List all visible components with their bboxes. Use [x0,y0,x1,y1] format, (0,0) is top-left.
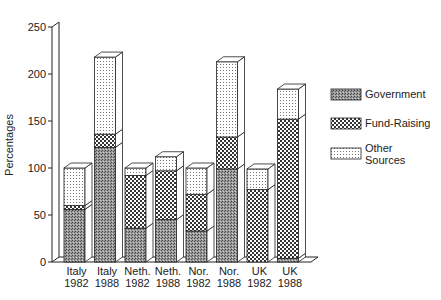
chart-canvas: 050100150200250 Italy1982Italy1988Neth.1… [0,0,441,300]
x-tick-label: 1982 [64,277,88,289]
bar-segment [95,57,116,134]
y-axis-title: Percentages [3,114,15,176]
legend-item: Fund-Raising [331,117,430,129]
x-tick-label: Italy [66,265,87,277]
bar-segment [186,231,207,262]
x-tick-label: Nor. [188,265,208,277]
legend-item: Government [331,88,426,100]
x-tick-label: Italy [97,265,118,277]
y-tick-label: 100 [28,162,46,174]
bars [64,52,306,262]
bar-segment [217,137,238,169]
y-axis: 050100150200250 [28,21,59,268]
bar-group [247,164,275,262]
bar-segment [247,190,268,262]
bar-group [186,163,214,262]
legend-label: Other [365,142,393,154]
x-tick-label: 1988 [156,277,180,289]
bar-group [95,52,123,262]
x-tick-label: UK [252,265,268,277]
bar-group [125,163,153,262]
bar-segment [64,209,85,262]
x-tick-label: 1988 [278,277,302,289]
x-tick-label: Neth. [124,265,150,277]
bar-segment [64,206,85,210]
y-tick-label: 200 [28,68,46,80]
x-tick-label: Nor. [219,265,239,277]
x-tick-label: 1988 [95,277,119,289]
bar-segment [95,134,116,147]
x-tick-label: 1982 [125,277,149,289]
bar-segment [95,147,116,262]
x-tick-label: 1982 [186,277,210,289]
bar-segment [278,119,299,258]
bar-segment [186,194,207,231]
legend-label: Fund-Raising [365,117,430,129]
x-tick-label: UK [282,265,298,277]
bar-segment [278,258,299,262]
bar-group [278,84,306,262]
y-tick-label: 50 [34,209,46,221]
x-tick-label: 1982 [247,277,271,289]
bar-segment [125,176,146,229]
bar-segment [186,168,207,194]
legend-swatch [331,118,361,129]
x-tick-label: 1988 [217,277,241,289]
y-tick-label: 150 [28,115,46,127]
legend-label: Sources [365,154,406,166]
stacked-bar-chart: 050100150200250 Italy1982Italy1988Neth.1… [0,0,441,300]
bar-segment [156,171,177,220]
bar-segment [64,168,85,206]
bar-segment [278,89,299,119]
x-tick-label: Neth. [155,265,181,277]
y-tick-label: 250 [28,21,46,33]
legend: GovernmentFund-RaisingOtherSources [331,88,430,166]
bar-segment [125,168,146,176]
bar-group [217,57,245,262]
bar-segment [156,157,177,171]
legend-label: Government [365,88,426,100]
bar-segment [247,169,268,190]
bar-segment [217,169,238,262]
legend-swatch [331,148,361,159]
x-axis-labels: Italy1982Italy1988Neth.1982Neth.1988Nor.… [64,265,302,289]
legend-swatch [331,89,361,100]
bar-segment [217,62,238,137]
legend-item: OtherSources [331,142,406,166]
y-tick-label: 0 [40,256,46,268]
bar-segment [125,228,146,262]
bar-group [64,163,92,262]
bar-group [156,152,184,262]
bar-segment [156,220,177,262]
